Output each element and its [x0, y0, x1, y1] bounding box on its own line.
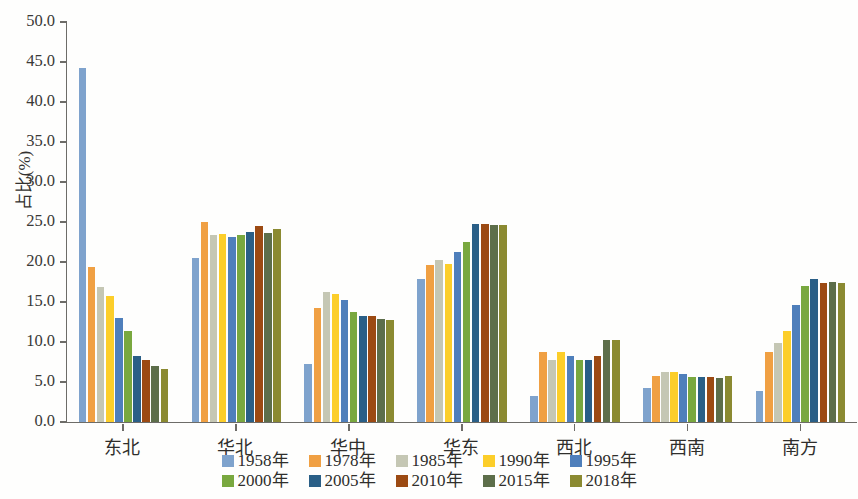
bar-东北-2015年[interactable] — [151, 366, 159, 422]
bar-西北-1985年[interactable] — [548, 360, 556, 422]
bar-西北-2015年[interactable] — [603, 340, 611, 422]
bar-华中-1978年[interactable] — [314, 308, 322, 422]
legend-swatch-1990年 — [483, 455, 495, 467]
bar-华北-1958年[interactable] — [192, 258, 200, 422]
bar-南方-1958年[interactable] — [756, 391, 764, 422]
bar-西南-2010年[interactable] — [707, 377, 715, 422]
bar-groups-layer — [67, 22, 857, 422]
bar-西南-1995年[interactable] — [679, 374, 687, 422]
bar-西南-2000年[interactable] — [688, 377, 696, 422]
legend-item-2015年[interactable]: 2015年 — [483, 472, 550, 489]
bar-南方-2000年[interactable] — [801, 286, 809, 422]
legend-label-1990年: 1990年 — [499, 452, 550, 469]
legend-item-1958年[interactable]: 1958年 — [222, 452, 289, 469]
bar-华东-2018年[interactable] — [499, 225, 507, 422]
bar-西北-2018年[interactable] — [612, 340, 620, 422]
bar-东北-2010年[interactable] — [142, 360, 150, 422]
x-axis-tick-mark — [800, 424, 802, 431]
legend-label-1958年: 1958年 — [238, 452, 289, 469]
bar-华北-1995年[interactable] — [228, 237, 236, 422]
legend-item-2005年[interactable]: 2005年 — [309, 472, 376, 489]
bar-西南-2018年[interactable] — [725, 376, 733, 422]
bar-南方-2015年[interactable] — [829, 282, 837, 422]
x-axis-tick-mark — [461, 424, 463, 431]
bar-华中-1990年[interactable] — [332, 294, 340, 422]
bar-华中-2015年[interactable] — [377, 319, 385, 422]
y-axis-tick-mark — [60, 421, 67, 423]
bar-华东-1958年[interactable] — [417, 279, 425, 422]
bar-西南-1978年[interactable] — [652, 376, 660, 422]
bar-华中-2018年[interactable] — [386, 320, 394, 422]
y-axis-tick-mark — [60, 61, 67, 63]
bar-华东-2005年[interactable] — [472, 224, 480, 422]
bar-东北-2000年[interactable] — [124, 331, 132, 422]
bar-华东-1978年[interactable] — [426, 265, 434, 422]
bar-西北-1958年[interactable] — [530, 396, 538, 422]
bar-东北-1978年[interactable] — [88, 267, 96, 422]
bar-华东-2000年[interactable] — [463, 242, 471, 422]
bar-西北-2010年[interactable] — [594, 356, 602, 422]
bar-华中-2005年[interactable] — [359, 316, 367, 422]
bar-华北-2015年[interactable] — [264, 233, 272, 422]
legend-item-2010年[interactable]: 2010年 — [396, 472, 463, 489]
legend-item-1995年[interactable]: 1995年 — [570, 452, 637, 469]
bar-西南-1990年[interactable] — [670, 372, 678, 422]
bar-华北-2010年[interactable] — [255, 226, 263, 422]
bar-group-西北 — [518, 22, 631, 422]
bar-西南-1958年[interactable] — [643, 388, 651, 422]
x-axis-tick-mark — [348, 424, 350, 431]
bar-东北-1990年[interactable] — [106, 296, 114, 422]
bar-group-南方 — [744, 22, 857, 422]
bar-华北-2000年[interactable] — [237, 235, 245, 422]
legend-swatch-2005年 — [309, 475, 321, 487]
bar-华东-2015年[interactable] — [490, 225, 498, 422]
bar-东北-1995年[interactable] — [115, 318, 123, 422]
y-axis-tick-label: 10.0 — [26, 331, 55, 351]
bar-南方-2005年[interactable] — [810, 279, 818, 422]
legend-swatch-2015年 — [483, 475, 495, 487]
bar-南方-1995年[interactable] — [792, 305, 800, 422]
bar-华北-1985年[interactable] — [210, 235, 218, 422]
legend-item-1985年[interactable]: 1985年 — [396, 452, 463, 469]
bar-华北-2018年[interactable] — [273, 229, 281, 422]
bar-南方-2018年[interactable] — [838, 283, 846, 422]
bar-西北-1990年[interactable] — [557, 352, 565, 422]
bar-西北-2005年[interactable] — [585, 360, 593, 422]
legend-label-2000年: 2000年 — [238, 472, 289, 489]
bar-华中-1995年[interactable] — [341, 300, 349, 422]
bar-西南-2005年[interactable] — [698, 377, 706, 422]
legend-swatch-1958年 — [222, 455, 234, 467]
bar-东北-1985年[interactable] — [97, 287, 105, 422]
bar-华东-1995年[interactable] — [454, 252, 462, 422]
x-axis-tick-mark — [122, 424, 124, 431]
bar-华中-1958年[interactable] — [304, 364, 312, 422]
bar-南方-1978年[interactable] — [765, 352, 773, 422]
y-axis-tick-label: 5.0 — [34, 371, 55, 391]
bar-华中-2010年[interactable] — [368, 316, 376, 422]
legend-swatch-2010年 — [396, 475, 408, 487]
bar-西北-1995年[interactable] — [567, 356, 575, 422]
legend-item-2000年[interactable]: 2000年 — [222, 472, 289, 489]
bar-东北-2005年[interactable] — [133, 356, 141, 422]
bar-西北-2000年[interactable] — [576, 360, 584, 422]
bar-华北-1990年[interactable] — [219, 234, 227, 422]
legend-item-1990年[interactable]: 1990年 — [483, 452, 550, 469]
bar-华中-1985年[interactable] — [323, 292, 331, 422]
legend-item-1978年[interactable]: 1978年 — [309, 452, 376, 469]
bar-南方-2010年[interactable] — [820, 283, 828, 422]
bar-华北-1978年[interactable] — [201, 222, 209, 422]
bar-南方-1990年[interactable] — [783, 331, 791, 422]
bar-东北-1958年[interactable] — [79, 68, 87, 422]
bar-华中-2000年[interactable] — [350, 312, 358, 422]
bar-华东-2010年[interactable] — [481, 224, 489, 422]
legend-item-2018年[interactable]: 2018年 — [570, 472, 637, 489]
bar-西南-2015年[interactable] — [716, 378, 724, 422]
bar-华东-1990年[interactable] — [445, 264, 453, 422]
bar-东北-2018年[interactable] — [161, 369, 169, 422]
bar-西南-1985年[interactable] — [661, 372, 669, 422]
y-axis-tick-mark — [60, 181, 67, 183]
bar-华北-2005年[interactable] — [246, 232, 254, 422]
bar-南方-1985年[interactable] — [774, 343, 782, 422]
bar-西北-1978年[interactable] — [539, 352, 547, 422]
bar-华东-1985年[interactable] — [435, 260, 443, 422]
